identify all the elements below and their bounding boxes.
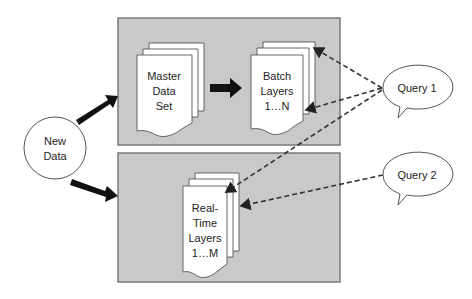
new-data-node: New Data [24, 117, 86, 179]
batch-line-1: Batch [263, 70, 291, 82]
new-data-to-realtime-arrow [70, 179, 118, 202]
batch-line-3: 1…N [264, 100, 289, 112]
new-data-line-2: Data [43, 150, 67, 162]
master-line-1: Master [147, 70, 181, 82]
query-1-label: Query 1 [397, 82, 436, 94]
realtime-line-1: Real- [192, 202, 219, 214]
query-2-bubble: Query 2 [383, 152, 453, 205]
batch-line-2: Layers [260, 85, 294, 97]
master-line-2: Data [152, 85, 176, 97]
master-line-3: Set [156, 100, 173, 112]
query-2-label: Query 2 [397, 169, 436, 181]
new-data-line-1: New [44, 135, 66, 147]
lambda-architecture-diagram: New Data Master Data Set Batch Layers 1…… [0, 0, 472, 299]
realtime-line-3: Layers [188, 232, 222, 244]
new-data-to-batch-arrow [76, 95, 118, 125]
realtime-line-2: Time [193, 217, 217, 229]
realtime-line-4: 1…M [192, 247, 218, 259]
query-1-bubble: Query 1 [383, 65, 453, 118]
